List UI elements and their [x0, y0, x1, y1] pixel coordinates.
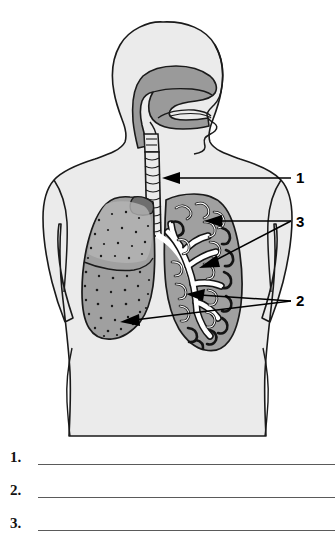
respiratory-system-diagram: 1 3 2 [0, 0, 335, 440]
answer-rule-2[interactable] [38, 497, 335, 498]
diagram-svg [0, 0, 335, 440]
answer-number-1: 1. [10, 447, 21, 467]
callout-number-3: 3 [296, 214, 304, 229]
answer-rule-1[interactable] [38, 464, 335, 465]
answer-row-1: 1. [0, 447, 335, 477]
larynx [144, 134, 159, 152]
answer-rule-3[interactable] [38, 530, 335, 531]
answer-number-3: 3. [10, 513, 21, 533]
answer-number-2: 2. [10, 480, 21, 500]
callout-number-2: 2 [296, 293, 304, 308]
worksheet-page: 1 3 2 1. 2. 3. [0, 0, 335, 544]
callout-number-1: 1 [296, 170, 304, 185]
answer-row-2: 2. [0, 480, 335, 510]
answer-list: 1. 2. 3. [0, 443, 335, 544]
answer-row-3: 3. [0, 513, 335, 543]
